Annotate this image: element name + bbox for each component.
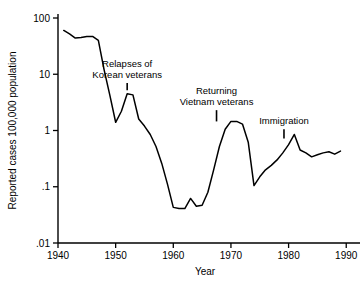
annotation-label: Vietnam veterans <box>180 96 254 107</box>
y-tick-label: .01 <box>36 238 50 249</box>
x-axis-title: Year <box>195 266 216 277</box>
annotation-immigration: Immigration <box>259 115 309 138</box>
annotation-label: Korean veterans <box>92 69 162 80</box>
x-tick-label: 1960 <box>162 250 185 261</box>
annotation-korean: Relapses ofKorean veterans <box>92 58 162 90</box>
annotation-label: Returning <box>196 85 237 96</box>
tuberculosis-incidence-chart: 100101.1.01194019501960197019801990YearR… <box>0 0 363 281</box>
annotation-label: Immigration <box>259 115 309 126</box>
annotation-label: Relapses of <box>102 58 153 69</box>
x-tick-label: 1990 <box>335 250 358 261</box>
chart-canvas: 100101.1.01194019501960197019801990YearR… <box>0 0 363 281</box>
y-tick-label: .1 <box>42 181 51 192</box>
y-axis-title: Reported cases 100,000 population <box>7 52 18 210</box>
x-tick-label: 1980 <box>277 250 300 261</box>
x-tick-label: 1940 <box>47 250 70 261</box>
y-tick-label: 10 <box>39 69 51 80</box>
y-tick-label: 1 <box>44 125 50 136</box>
y-tick-label: 100 <box>33 13 50 24</box>
annotation-vietnam: ReturningVietnam veterans <box>180 85 254 121</box>
x-tick-label: 1950 <box>105 250 128 261</box>
x-tick-label: 1970 <box>220 250 243 261</box>
